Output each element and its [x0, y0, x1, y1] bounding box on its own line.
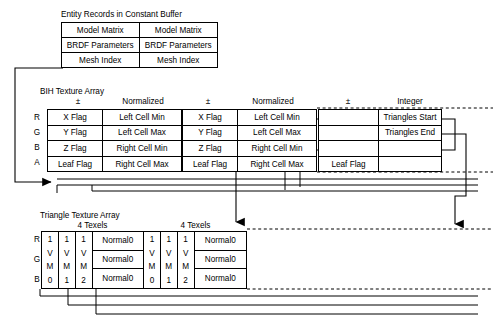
bih-row: Triangles End — [319, 126, 441, 142]
bih-row: Leaf FlagRight Cell Max — [48, 157, 181, 173]
bih-cell: Left Cell Max — [238, 126, 316, 142]
triangle-vertex-glyph: M — [165, 262, 172, 271]
triangle-normal-cell: Normal0 — [195, 232, 246, 251]
triangle-normal-cell: Normal0 — [93, 232, 143, 251]
bih-cell — [319, 126, 379, 142]
triangle-groups: 1VM01VM11VM2Normal0Normal0Normal01VM01VM… — [42, 232, 246, 288]
triangle-normal-cell: Normal0 — [195, 251, 246, 270]
triangle-texture-table: 1VM01VM11VM2Normal0Normal0Normal01VM01VM… — [41, 231, 247, 289]
bih-cell: Triangles End — [379, 126, 441, 142]
bih-cell: Right Cell Max — [103, 157, 181, 173]
bih-cell: Leaf Flag — [48, 157, 103, 173]
triangle-vertex-glyph: M — [182, 262, 189, 271]
bih-row-label-b: B — [32, 143, 42, 152]
triangle-vertex-glyph: M — [47, 262, 54, 271]
triangle-vertex-glyph: 2 — [81, 276, 86, 285]
bih-cell: Z Flag — [48, 141, 103, 157]
entity-record-cell: Mesh Index — [140, 53, 218, 68]
bih-cell — [319, 141, 379, 157]
bih-row: Z FlagRight Cell Min — [183, 141, 316, 157]
bih-cell: Right Cell Max — [238, 157, 316, 173]
bih-cell: Left Cell Min — [238, 110, 316, 126]
bih-cell: Triangles Start — [379, 110, 441, 126]
triangle-vertex-glyph: 1 — [167, 235, 172, 244]
triangle-vertex-glyph: V — [81, 249, 86, 258]
triangle-vertex-glyph: V — [64, 249, 69, 258]
bih-cell: Y Flag — [48, 126, 103, 142]
triangle-vertex-column: 1VM2 — [178, 232, 195, 288]
bih-header-sign-3: ± — [318, 97, 378, 107]
triangle-vertex-column: 1VM0 — [42, 232, 59, 288]
triangle-vertex-glyph: 1 — [48, 235, 53, 244]
bih-cell: Leaf Flag — [183, 157, 238, 173]
bih-cell — [379, 157, 441, 173]
entity-record-cell: BRDF Parameters — [140, 38, 218, 53]
bih-row: Leaf Flag — [319, 157, 441, 173]
bih-cell: Right Cell Min — [238, 141, 316, 157]
bih-block-2: X FlagLeft Cell MinY FlagLeft Cell MaxZ … — [182, 109, 317, 172]
entity-record-row: BRDF ParametersBRDF Parameters — [62, 38, 217, 53]
bih-row: Z FlagRight Cell Min — [48, 141, 181, 157]
triangle-normal-column: Normal0Normal0Normal0 — [195, 232, 246, 288]
triangle-normal-column: Normal0Normal0Normal0 — [93, 232, 144, 288]
triangle-vertex-glyph: V — [47, 249, 52, 258]
entity-record-cell: BRDF Parameters — [62, 38, 140, 53]
bih-row-label-g: G — [32, 128, 42, 137]
triangle-vertex-column: 1VM2 — [76, 232, 93, 288]
bih-header-normalized-1: Normalized — [104, 97, 182, 107]
bih-row: X FlagLeft Cell Min — [48, 110, 181, 126]
bih-block-1: X FlagLeft Cell MinY FlagLeft Cell MaxZ … — [47, 109, 182, 172]
entity-record-row: Model MatrixModel Matrix — [62, 23, 217, 38]
bih-cell: Z Flag — [183, 141, 238, 157]
bih-row: Triangles Start — [319, 110, 441, 126]
triangle-vertex-glyph: M — [80, 262, 87, 271]
triangle-vertex-glyph: 1 — [64, 235, 69, 244]
triangle-vertex-column: 1VM1 — [161, 232, 178, 288]
triangle-vertex-glyph: V — [149, 249, 154, 258]
bih-header-normalized-2: Normalized — [234, 97, 312, 107]
bih-row-label-r: R — [32, 113, 42, 122]
bih-cell: Right Cell Min — [103, 141, 181, 157]
bih-cell — [379, 141, 441, 157]
triangle-vertex-glyph: 1 — [64, 276, 69, 285]
triangle-normal-cell: Normal0 — [93, 251, 143, 270]
triangle-array-title: Triangle Texture Array — [40, 211, 120, 221]
bih-row: Leaf FlagRight Cell Max — [183, 157, 316, 173]
triangle-normal-cell: Normal0 — [93, 269, 143, 288]
bih-cell: Left Cell Max — [103, 126, 181, 142]
triangle-vertex-column: 1VM0 — [144, 232, 161, 288]
bih-row: X FlagLeft Cell Min — [183, 110, 316, 126]
bih-array-title: BIH Texture Array — [40, 87, 104, 97]
triangle-vertex-glyph: 1 — [183, 235, 188, 244]
triangle-vertex-column: 1VM1 — [59, 232, 76, 288]
triangle-vertex-glyph: M — [149, 262, 156, 271]
bih-header-sign-2: ± — [182, 97, 234, 107]
entity-record-cell: Mesh Index — [62, 53, 140, 68]
bih-cell: X Flag — [183, 110, 238, 126]
entity-record-row: Mesh IndexMesh Index — [62, 53, 217, 68]
bih-header-integer: Integer — [378, 97, 442, 107]
bih-cell: X Flag — [48, 110, 103, 126]
triangle-vertex-glyph: 1 — [167, 276, 172, 285]
bih-cell: Left Cell Min — [103, 110, 181, 126]
entity-record-cell: Model Matrix — [62, 23, 140, 38]
bih-cell — [319, 110, 379, 126]
triangle-group-header-1: 4 Texels — [41, 221, 144, 231]
triangle-vertex-glyph: M — [63, 262, 70, 271]
bih-cell: Leaf Flag — [319, 157, 379, 173]
entity-records-title: Entity Records in Constant Buffer — [61, 10, 182, 20]
bih-block-3: Triangles StartTriangles EndLeaf Flag — [318, 109, 442, 172]
bih-row — [319, 141, 441, 157]
bih-row-label-a: A — [32, 158, 42, 167]
bih-row: Y FlagLeft Cell Max — [183, 126, 316, 142]
triangle-vertex-glyph: 1 — [150, 235, 155, 244]
triangle-group-header-2: 4 Texels — [144, 221, 247, 231]
bih-header-sign-1: ± — [52, 97, 104, 107]
triangle-vertex-glyph: 1 — [81, 235, 86, 244]
triangle-vertex-glyph: 0 — [150, 276, 155, 285]
diagram-canvas: Entity Records in Constant Buffer Model … — [0, 0, 493, 336]
entity-record-cell: Model Matrix — [140, 23, 218, 38]
triangle-vertex-glyph: 0 — [48, 276, 53, 285]
triangle-normal-cell: Normal0 — [195, 269, 246, 288]
triangle-vertex-glyph: V — [183, 249, 188, 258]
